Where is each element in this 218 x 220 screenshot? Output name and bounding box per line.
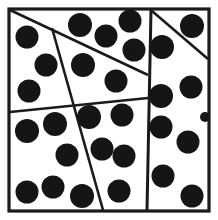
dot-13-lower-left bbox=[42, 176, 65, 199]
dot-8-upper-middle bbox=[105, 70, 128, 93]
dot-28-right-panel bbox=[200, 112, 210, 122]
dot-4-upper-strip bbox=[95, 25, 118, 48]
dot-11-lower-left bbox=[56, 144, 79, 167]
dot-10-lower-left bbox=[43, 112, 67, 136]
dot-1-upper-left bbox=[35, 54, 58, 77]
dot-20-right-upper-triangle bbox=[180, 14, 204, 38]
dot-3-upper-strip bbox=[68, 13, 92, 37]
dot-26-right-panel bbox=[152, 165, 175, 188]
dot-25-right-panel bbox=[177, 131, 200, 154]
dot-18-lower-middle bbox=[113, 145, 136, 168]
dot-17-lower-middle bbox=[91, 138, 114, 161]
dot-7-upper-middle bbox=[71, 53, 95, 77]
figure-container bbox=[0, 0, 218, 220]
dot-24-right-panel bbox=[150, 116, 173, 139]
dot-0-upper-left bbox=[16, 26, 39, 49]
dot-21-right-panel bbox=[150, 35, 174, 59]
dot-5-upper-strip bbox=[119, 10, 142, 33]
dot-12-lower-left bbox=[16, 181, 39, 204]
dot-16-lower-middle bbox=[111, 104, 134, 127]
dot-15-lower-middle bbox=[77, 105, 101, 129]
dot-9-lower-left bbox=[15, 119, 39, 143]
dot-2-upper-left bbox=[18, 80, 41, 103]
dot-23-right-panel bbox=[180, 76, 203, 99]
partition-dot-diagram bbox=[0, 0, 218, 220]
dot-19-lower-middle bbox=[108, 180, 131, 203]
dot-6-upper-strip bbox=[123, 39, 146, 62]
dot-27-right-panel bbox=[181, 185, 204, 208]
dot-14-lower-left bbox=[70, 184, 94, 208]
dot-22-right-panel bbox=[149, 84, 173, 108]
